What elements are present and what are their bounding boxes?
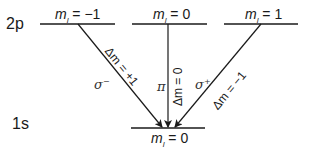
selection-rule-0: Δm = 0 <box>172 68 184 106</box>
m-subscript: l <box>165 16 167 25</box>
m-symbol: m <box>245 6 257 22</box>
sublevel-label-m-minus1: ml = −1 <box>55 7 100 25</box>
polarization-sigma-plus: σ+ <box>195 78 211 91</box>
m-value: = −1 <box>72 6 100 22</box>
sublevel-label-m-plus1: ml = 1 <box>245 7 282 25</box>
level-name-2p: 2p <box>6 16 24 32</box>
level-name-2p-text: 2p <box>6 15 24 32</box>
m-subscript: l <box>257 16 259 25</box>
sigma-superscript: − <box>103 77 110 86</box>
sublevel-label-final-m-0: ml = 0 <box>151 131 188 149</box>
polarization-sigma-minus: σ− <box>94 78 110 91</box>
sigma-superscript: + <box>204 77 211 86</box>
m-value: = 0 <box>170 6 190 22</box>
m-subscript: l <box>163 140 165 149</box>
polarization-pi: π <box>157 80 166 93</box>
m-symbol: m <box>55 6 67 22</box>
m-symbol: m <box>151 130 163 146</box>
m-value: = 1 <box>262 6 282 22</box>
sublevel-label-m-0: ml = 0 <box>153 7 190 25</box>
m-subscript: l <box>67 16 69 25</box>
level-name-1s: 1s <box>12 116 29 132</box>
level-name-1s-text: 1s <box>12 115 29 132</box>
sigma-symbol: σ <box>195 77 204 92</box>
m-symbol: m <box>153 6 165 22</box>
sigma-symbol: σ <box>94 77 103 92</box>
m-value: = 0 <box>168 130 188 146</box>
